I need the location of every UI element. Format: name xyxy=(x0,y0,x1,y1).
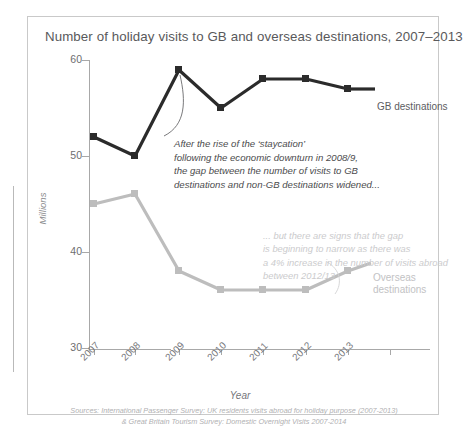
gb-point-2007 xyxy=(90,133,97,140)
annotation-overseas-line-2: is beginning to narrow as there was xyxy=(263,242,448,255)
legend-gb-text: GB destinations xyxy=(377,101,448,113)
gb-point-2009 xyxy=(175,66,182,73)
overseas-point-2010 xyxy=(217,286,224,293)
left-edge-rule xyxy=(13,186,14,372)
legend-overseas-line2: destinations xyxy=(373,284,426,296)
annotation-overseas-line-3: a 4% increase in the number of visits ab… xyxy=(263,256,448,269)
chart-figure: Number of holiday visits to GB and overs… xyxy=(27,16,439,415)
overseas-point-2008 xyxy=(131,190,138,197)
plot-area: 60 50 40 30 Millions 2007 2008 2009 2010… xyxy=(28,17,440,416)
overseas-point-2007 xyxy=(90,200,97,207)
gb-point-2012 xyxy=(302,75,309,82)
legend-label-gb: GB destinations xyxy=(377,101,448,113)
sources-line-1: Sources: International Passenger Survey:… xyxy=(28,406,440,417)
gb-annotation-leader xyxy=(164,75,183,136)
gb-point-2013 xyxy=(344,85,351,92)
series-lines xyxy=(28,17,440,416)
overseas-point-2009 xyxy=(175,267,182,274)
annotation-overseas-line-4: between 2012/13 xyxy=(263,269,448,282)
overseas-point-2011 xyxy=(259,286,266,293)
annotation-overseas: ... but there are signs that the gap is … xyxy=(263,229,448,282)
annotation-overseas-line-1: ... but there are signs that the gap xyxy=(263,229,448,242)
annotation-gb-line-1: After the rise of the ‘staycation’ xyxy=(174,137,380,151)
annotation-gb-line-4: destinations and non-GB destinations wid… xyxy=(174,178,380,192)
gb-point-2010 xyxy=(217,104,224,111)
sources-note: Sources: International Passenger Survey:… xyxy=(28,406,440,428)
gb-point-2011 xyxy=(259,75,266,82)
annotation-gb: After the rise of the ‘staycation’ follo… xyxy=(174,137,380,191)
gb-point-2008 xyxy=(131,152,138,159)
annotation-gb-line-3: the gap between the number of visits to … xyxy=(174,164,380,178)
sources-line-2: & Great Britain Tourism Survey: Domestic… xyxy=(28,417,440,428)
overseas-point-2012 xyxy=(302,286,309,293)
annotation-gb-line-2: following the economic downturn in 2008/… xyxy=(174,151,380,165)
